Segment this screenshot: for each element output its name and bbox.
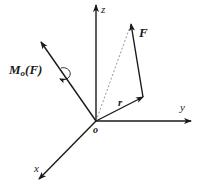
r-label: r — [118, 96, 123, 108]
moment-label-arg: (F) — [25, 62, 42, 77]
x-axis-label: x — [33, 162, 39, 174]
force-label: F — [138, 25, 148, 40]
moment-label-main: M — [8, 62, 21, 77]
origin-label: o — [93, 124, 98, 135]
moment-vector — [41, 42, 96, 121]
z-axis-label: z — [100, 3, 106, 15]
x-axis — [39, 121, 96, 179]
y-axis-label: y — [179, 101, 185, 113]
moment-label: Mo(F) — [8, 62, 42, 78]
moment-diagram: z y x o r F Mo(F) — [0, 0, 199, 190]
rotation-arc-icon — [60, 68, 70, 80]
